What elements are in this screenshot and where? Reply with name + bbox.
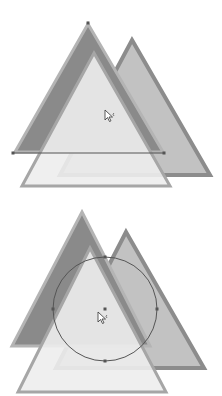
circle-handle-left[interactable] — [52, 308, 55, 311]
circle-handle-right[interactable] — [156, 308, 159, 311]
figure-line-selection — [0, 0, 222, 200]
figure-circle-selection — [0, 198, 222, 396]
anchor-handle-top[interactable] — [87, 22, 90, 25]
circle-center-handle[interactable] — [104, 308, 107, 311]
circle-handle-top[interactable] — [104, 256, 107, 259]
anchor-handle-left[interactable] — [12, 152, 15, 155]
anchor-handle-right[interactable] — [163, 152, 166, 155]
circle-handle-bottom[interactable] — [104, 360, 107, 363]
